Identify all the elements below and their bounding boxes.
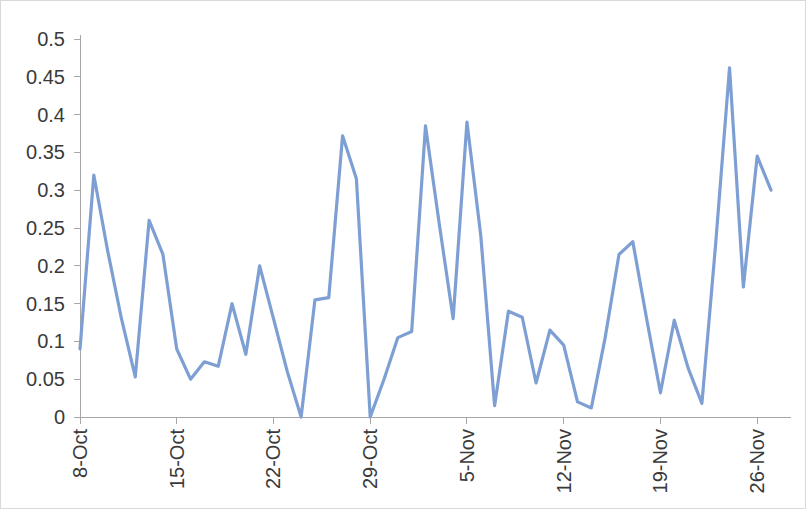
line-chart-figure: 00.050.10.150.20.250.30.350.40.450.5 8-O… [0, 0, 806, 509]
x-axis-tick-labels: 8-Oct15-Oct22-Oct29-Oct5-Nov12-Nov19-Nov… [1, 1, 806, 509]
x-axis-tick-label: 15-Oct [165, 429, 188, 489]
x-axis-tick-label: 19-Nov [649, 429, 672, 493]
x-axis-tick-label: 5-Nov [455, 429, 478, 482]
x-axis-tick-label: 29-Oct [359, 429, 382, 489]
x-axis-tick-label: 8-Oct [69, 429, 92, 478]
x-axis-tick-label: 26-Nov [746, 429, 769, 493]
x-axis-tick-label: 12-Nov [552, 429, 575, 493]
x-axis-tick-label: 22-Oct [262, 429, 285, 489]
